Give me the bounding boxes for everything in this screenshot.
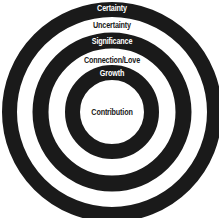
concentric-needs-diagram: Certainty Uncertainty Significance Conne…	[0, 0, 219, 218]
label-certainty: Certainty	[17, 3, 207, 13]
label-uncertainty: Uncertainty	[17, 20, 207, 30]
label-connection-love: Connection/Love	[17, 55, 207, 65]
label-contribution: Contribution	[17, 107, 207, 117]
label-significance: Significance	[17, 36, 207, 46]
label-growth: Growth	[17, 68, 207, 78]
